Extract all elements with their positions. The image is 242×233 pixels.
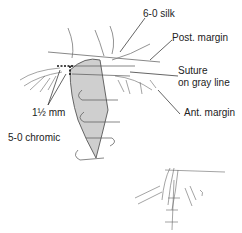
- label-on-gray-line: on gray line: [178, 77, 230, 88]
- repaired-eyelid-inset: [135, 168, 225, 230]
- silk-suture-loop: [112, 44, 150, 60]
- label-6-0-silk: 6-0 silk: [143, 8, 175, 19]
- silk-suture-loop: [110, 26, 114, 54]
- label-ant-margin: Ant. margin: [184, 107, 235, 118]
- posterior-margin-line: [48, 52, 160, 62]
- eyelashes-left: [20, 68, 62, 92]
- label-1-5-mm: 1½ mm: [32, 107, 65, 118]
- label-5-0-chromic: 5-0 chromic: [8, 132, 60, 143]
- silk-suture-loop: [95, 30, 104, 56]
- label-post-margin: Post. margin: [172, 32, 228, 43]
- label-suture: Suture: [178, 65, 207, 76]
- eyelashes-right: [115, 76, 156, 94]
